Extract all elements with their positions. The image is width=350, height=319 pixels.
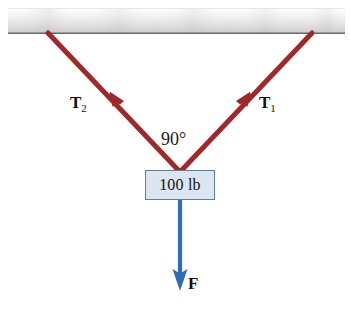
cable-label-t1: T1 — [259, 94, 276, 111]
cable-label-t1-symbol: T — [259, 93, 270, 112]
cable-label-t2: T2 — [70, 94, 87, 111]
diagram-canvas — [0, 0, 350, 319]
ceiling-support — [8, 8, 345, 34]
angle-label: 90° — [161, 130, 186, 148]
weight-box-label: 100 lb — [159, 177, 201, 193]
force-label-f: F — [188, 275, 198, 292]
cable-label-t2-symbol: T — [70, 93, 81, 112]
cable-label-t2-subscript: 2 — [81, 102, 87, 114]
cable-label-t1-subscript: 1 — [270, 102, 276, 114]
physics-diagram: T2 T1 90° 100 lb F — [0, 0, 350, 319]
force-arrow-f — [173, 199, 188, 291]
weight-box: 100 lb — [145, 170, 215, 200]
cable-t2 — [48, 33, 181, 173]
cable-t1 — [179, 33, 312, 173]
